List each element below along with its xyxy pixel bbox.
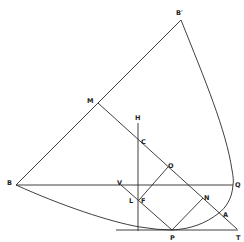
label-B-prime: B′ [176,9,183,17]
label-O: O [168,162,174,170]
label-P: P [170,234,175,242]
label-F: F [141,197,145,205]
label-H: H [135,114,140,122]
label-T: T [236,234,241,242]
curve-Q-A-P [172,185,233,230]
curve-B-P [16,185,172,230]
line-F-O [139,167,168,200]
label-B: B [7,179,12,187]
line-B-Bprime [16,20,181,185]
label-A: A [223,211,228,219]
label-Q: Q [235,181,241,189]
label-L: L [129,197,133,205]
label-M: M [87,97,93,105]
line-P-N [172,198,203,230]
geometric-diagram: B′ M H C O B V Q L F N A P T [0,0,244,242]
label-C: C [141,138,146,146]
label-V: V [117,179,122,187]
label-N: N [204,194,209,202]
curve-Bprime-Q [181,20,233,185]
